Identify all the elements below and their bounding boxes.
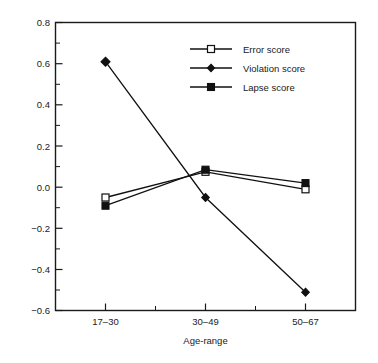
x-axis-tick-labels: 17–30 30–49 50–67 (92, 316, 318, 327)
series-violation-score (101, 57, 309, 296)
x-tick-label: 17–30 (92, 316, 118, 327)
legend-marker-filled-diamond-icon (207, 64, 214, 72)
x-axis-ticks (106, 304, 306, 311)
y-tick-label: 0.0 (37, 182, 50, 193)
y-tick-label: 0.6 (37, 58, 50, 69)
legend-label: Lapse score (243, 82, 295, 93)
series-line-violation-score (106, 62, 306, 293)
y-tick-label: 0.8 (37, 17, 50, 28)
data-point-marker (101, 57, 110, 66)
y-tick-label: 0.4 (37, 99, 50, 110)
x-tick-label: 50–67 (292, 316, 318, 327)
legend-label: Violation score (243, 63, 305, 74)
legend-item-error-score: Error score (190, 44, 290, 55)
data-point-marker (202, 166, 209, 173)
data-point-marker (102, 202, 109, 209)
y-axis-tick-labels: 0.8 0.6 0.4 0.2 0.0 −0.2 −0.4 −0.6 (31, 17, 50, 316)
y-tick-label: −0.6 (31, 305, 50, 316)
chart-legend: Error score Violation score Lapse score (190, 44, 305, 93)
y-tick-label: −0.4 (31, 264, 50, 275)
legend-item-lapse-score: Lapse score (190, 82, 295, 93)
x-tick-label: 30–49 (192, 316, 218, 327)
chart-figure: 0.8 0.6 0.4 0.2 0.0 −0.2 −0.4 −0.6 17–30… (0, 0, 378, 363)
legend-marker-open-square-icon (208, 46, 215, 53)
x-axis-title: Age-range (183, 335, 227, 346)
legend-label: Error score (243, 44, 290, 55)
legend-item-violation-score: Violation score (190, 63, 305, 74)
data-point-marker (302, 180, 309, 187)
legend-marker-filled-square-icon (208, 84, 215, 91)
series-lapse-score (102, 166, 309, 209)
line-chart: 0.8 0.6 0.4 0.2 0.0 −0.2 −0.4 −0.6 17–30… (0, 0, 378, 363)
y-tick-label: −0.2 (31, 223, 50, 234)
data-point-marker (102, 194, 109, 201)
y-tick-label: 0.2 (37, 141, 50, 152)
